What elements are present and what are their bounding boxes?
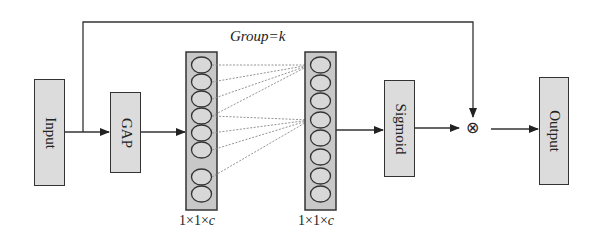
gap-label: GAP	[117, 117, 134, 147]
input-label: Input	[41, 117, 58, 149]
sigmoid-node: Sigmoid	[384, 80, 415, 177]
multiply-symbol: ⊗	[466, 118, 479, 137]
gap-node: GAP	[110, 92, 141, 173]
eca-diagram: Input GAP Sigmoid Output Group=k ⊗ 1×1×c…	[0, 0, 596, 243]
input-node: Input	[34, 79, 65, 186]
output-label: Output	[546, 110, 563, 152]
group-label: Group=k	[230, 28, 285, 45]
left-column-label: 1×1×c	[179, 213, 215, 229]
output-node: Output	[539, 77, 569, 185]
sigmoid-label: Sigmoid	[391, 103, 408, 154]
connectors	[0, 0, 596, 243]
left-neurons	[192, 57, 212, 202]
group-connections	[212, 65, 310, 177]
right-column-label: 1×1×c	[298, 213, 334, 229]
